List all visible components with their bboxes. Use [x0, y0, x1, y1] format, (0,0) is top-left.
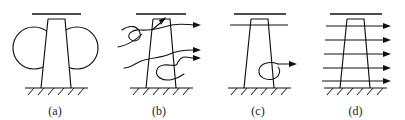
panel-b-caption: (b)	[108, 104, 210, 118]
panel-c-drawing	[208, 0, 308, 105]
ground-hatching	[327, 88, 383, 95]
flow-arrow-upper	[193, 22, 201, 28]
vortex-arrow-head	[289, 61, 297, 67]
flow-line-middle	[124, 50, 194, 68]
flow-line-lower-tail	[160, 74, 184, 80]
load-arrow-2	[325, 37, 391, 43]
flow-arrow-middle	[193, 47, 201, 53]
load-arrow-4	[323, 65, 391, 71]
panel-d: (d)	[306, 0, 405, 120]
panel-c: (c)	[208, 0, 308, 120]
panel-a-drawing	[0, 0, 110, 105]
flow-line-upper-tail	[118, 34, 142, 47]
ground-hatching	[231, 88, 287, 95]
panel-b: (b)	[108, 0, 210, 120]
panel-b-drawing	[108, 0, 210, 105]
load-arrows	[322, 23, 391, 84]
vortex-spiral	[259, 63, 280, 80]
panel-c-caption: (c)	[208, 104, 308, 118]
ground-hatching	[28, 88, 84, 95]
panel-d-drawing	[306, 0, 405, 105]
load-arrow-5	[322, 78, 391, 84]
flow-arrow-lower	[193, 55, 201, 61]
figure-root: (a)	[0, 0, 405, 120]
ground-hatching	[133, 88, 189, 95]
flow-line-upper	[122, 24, 194, 41]
panel-d-caption: (d)	[306, 104, 405, 118]
load-arrow-1	[326, 23, 391, 29]
panel-a-caption: (a)	[0, 104, 110, 118]
pier-outline	[244, 19, 274, 88]
panel-a: (a)	[0, 0, 110, 120]
load-arrow-3	[324, 51, 391, 57]
